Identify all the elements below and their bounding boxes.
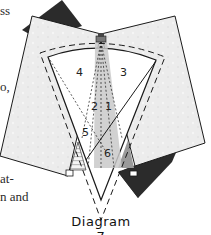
region-label-4: 4 [76,66,83,79]
diagram-caption: Diagram 7 [66,214,136,235]
region-label-5: 5 [82,126,89,139]
region-label-2: 2 [91,100,98,113]
region-label-6: 6 [104,147,111,160]
region-label-1: 1 [105,100,112,113]
region-label-3: 3 [120,66,127,79]
quilt-diagram: 4 3 2 1 5 6 [0,0,211,235]
